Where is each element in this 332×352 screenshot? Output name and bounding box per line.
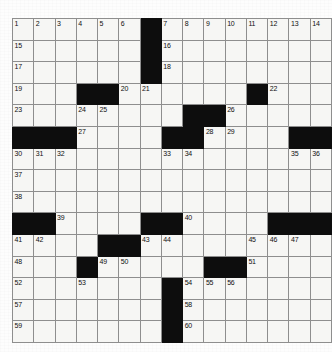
letter-cell[interactable] [34,83,55,105]
letter-cell[interactable]: 32 [55,148,76,170]
letter-cell[interactable] [268,299,289,321]
letter-cell[interactable] [310,105,331,127]
letter-cell[interactable] [268,256,289,278]
letter-cell[interactable] [76,234,97,256]
letter-cell[interactable] [55,321,76,343]
letter-cell[interactable] [246,278,267,300]
letter-cell[interactable]: 24 [76,105,97,127]
letter-cell[interactable]: 6 [119,19,140,41]
letter-cell[interactable] [34,191,55,213]
letter-cell[interactable] [140,256,161,278]
letter-cell[interactable] [268,62,289,84]
letter-cell[interactable]: 41 [13,234,34,256]
letter-cell[interactable]: 18 [161,62,182,84]
letter-cell[interactable] [310,234,331,256]
letter-cell[interactable]: 27 [76,126,97,148]
letter-cell[interactable] [289,278,310,300]
letter-cell[interactable]: 10 [225,19,246,41]
letter-cell[interactable]: 1 [13,19,34,41]
letter-cell[interactable]: 46 [268,234,289,256]
letter-cell[interactable]: 52 [13,278,34,300]
letter-cell[interactable] [119,105,140,127]
letter-cell[interactable] [119,191,140,213]
letter-cell[interactable] [289,191,310,213]
letter-cell[interactable] [76,148,97,170]
letter-cell[interactable]: 4 [76,19,97,41]
letter-cell[interactable]: 7 [161,19,182,41]
letter-cell[interactable] [204,299,225,321]
letter-cell[interactable] [225,191,246,213]
letter-cell[interactable]: 25 [98,105,119,127]
letter-cell[interactable] [98,191,119,213]
letter-cell[interactable] [225,148,246,170]
letter-cell[interactable]: 38 [13,191,34,213]
letter-cell[interactable] [140,278,161,300]
letter-cell[interactable] [55,234,76,256]
letter-cell[interactable]: 19 [13,83,34,105]
letter-cell[interactable] [98,299,119,321]
letter-cell[interactable]: 2 [34,19,55,41]
letter-cell[interactable] [204,234,225,256]
letter-cell[interactable] [98,278,119,300]
letter-cell[interactable]: 12 [268,19,289,41]
letter-cell[interactable]: 42 [34,234,55,256]
letter-cell[interactable]: 45 [246,234,267,256]
letter-cell[interactable] [183,83,204,105]
letter-cell[interactable] [98,321,119,343]
letter-cell[interactable]: 60 [183,321,204,343]
letter-cell[interactable] [119,126,140,148]
letter-cell[interactable] [55,278,76,300]
letter-cell[interactable] [34,105,55,127]
letter-cell[interactable] [98,62,119,84]
letter-cell[interactable] [140,191,161,213]
letter-cell[interactable] [246,126,267,148]
letter-cell[interactable] [55,170,76,192]
letter-cell[interactable]: 48 [13,256,34,278]
letter-cell[interactable] [183,191,204,213]
letter-cell[interactable] [98,170,119,192]
letter-cell[interactable] [55,256,76,278]
letter-cell[interactable] [246,299,267,321]
letter-cell[interactable] [268,148,289,170]
letter-cell[interactable] [289,299,310,321]
letter-cell[interactable] [119,148,140,170]
letter-cell[interactable] [140,105,161,127]
letter-cell[interactable] [140,170,161,192]
letter-cell[interactable] [225,170,246,192]
letter-cell[interactable] [204,191,225,213]
letter-cell[interactable]: 47 [289,234,310,256]
letter-cell[interactable]: 11 [246,19,267,41]
letter-cell[interactable]: 44 [161,234,182,256]
letter-cell[interactable] [310,256,331,278]
letter-cell[interactable] [98,126,119,148]
letter-cell[interactable] [140,148,161,170]
letter-cell[interactable] [76,191,97,213]
letter-cell[interactable] [225,40,246,62]
letter-cell[interactable] [183,40,204,62]
letter-cell[interactable]: 49 [98,256,119,278]
letter-cell[interactable]: 54 [183,278,204,300]
letter-cell[interactable] [268,191,289,213]
letter-cell[interactable] [76,213,97,235]
letter-cell[interactable]: 59 [13,321,34,343]
letter-cell[interactable] [183,62,204,84]
letter-cell[interactable] [34,299,55,321]
letter-cell[interactable] [225,234,246,256]
letter-cell[interactable] [268,40,289,62]
letter-cell[interactable] [268,105,289,127]
letter-cell[interactable] [140,126,161,148]
letter-cell[interactable]: 13 [289,19,310,41]
letter-cell[interactable]: 43 [140,234,161,256]
letter-cell[interactable] [55,62,76,84]
letter-cell[interactable]: 29 [225,126,246,148]
letter-cell[interactable] [310,83,331,105]
letter-cell[interactable] [183,170,204,192]
letter-cell[interactable] [119,278,140,300]
letter-cell[interactable] [34,256,55,278]
letter-cell[interactable] [161,83,182,105]
letter-cell[interactable]: 21 [140,83,161,105]
letter-cell[interactable] [204,170,225,192]
letter-cell[interactable] [98,148,119,170]
letter-cell[interactable] [55,83,76,105]
letter-cell[interactable]: 53 [76,278,97,300]
